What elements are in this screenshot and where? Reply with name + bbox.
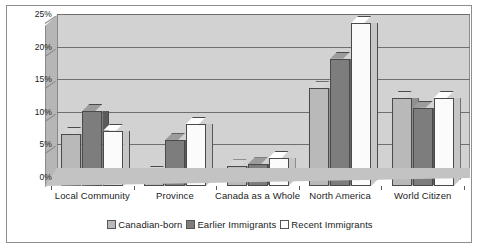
bar-top-face xyxy=(330,52,350,59)
bar-side-face xyxy=(371,23,378,186)
gridline xyxy=(57,47,470,48)
x-axis-category-label: North America xyxy=(309,190,371,201)
bar-top-face xyxy=(248,157,268,164)
legend-label: Earlier Immigrants xyxy=(197,219,276,230)
bar-top xyxy=(351,16,371,23)
y-axis-tick-label: 10% xyxy=(35,107,52,117)
gridline xyxy=(57,79,470,80)
y-axis-tick-label: 20% xyxy=(35,42,52,52)
bar-top-face xyxy=(269,151,289,158)
gridline xyxy=(57,14,470,15)
bar-chart: 0%5%10%15%20%25% Local CommunityProvince… xyxy=(0,0,480,249)
bar-top xyxy=(227,159,247,166)
bar-face xyxy=(351,23,371,186)
x-axis-category-label: Local Community xyxy=(55,190,130,201)
bar-top xyxy=(61,127,81,134)
bar-top-face xyxy=(165,133,185,140)
legend-label: Canadian-born xyxy=(118,219,182,230)
y-axis-tick-label: 25% xyxy=(35,9,52,19)
y-axis-tick-label: 15% xyxy=(35,74,52,84)
bar xyxy=(330,59,350,186)
bar-top xyxy=(103,124,123,131)
bar xyxy=(351,23,371,186)
x-axis-category-label: Canada as a Whole xyxy=(215,190,300,201)
bar-top-face xyxy=(103,124,123,131)
bar-face xyxy=(330,59,350,186)
legend-item[interactable]: Recent Immigrants xyxy=(280,219,372,230)
legend-label: Recent Immigrants xyxy=(291,219,372,230)
legend-swatch-icon xyxy=(186,220,195,229)
bar-top xyxy=(269,151,289,158)
legend-item[interactable]: Earlier Immigrants xyxy=(186,219,276,230)
y-axis-tick-label: 0% xyxy=(40,172,53,182)
legend-item[interactable]: Canadian-born xyxy=(107,219,182,230)
plot-area: 0%5%10%15%20%25% xyxy=(45,14,470,186)
bar-top xyxy=(248,157,268,164)
bar-top-face xyxy=(186,117,206,124)
y-axis-tick-label: 5% xyxy=(40,139,53,149)
bar-top xyxy=(392,91,412,98)
bar-top xyxy=(186,117,206,124)
chart-legend: Canadian-bornEarlier ImmigrantsRecent Im… xyxy=(0,219,480,230)
bar-top xyxy=(330,52,350,59)
bar-top xyxy=(434,91,454,98)
bar-top-face xyxy=(434,91,454,98)
bar-top xyxy=(165,133,185,140)
bar-top xyxy=(413,101,433,108)
legend-swatch-icon xyxy=(107,220,116,229)
legend-swatch-icon xyxy=(280,220,289,229)
bar-top-face xyxy=(227,159,247,166)
bar-top-face xyxy=(61,127,81,134)
bar-top xyxy=(309,81,329,88)
bar-top-face xyxy=(351,16,371,23)
bar-side xyxy=(371,23,378,186)
bar-top-face xyxy=(413,101,433,108)
bar-top-face xyxy=(82,104,102,111)
bar-top-face xyxy=(392,91,412,98)
bar-top xyxy=(82,104,102,111)
x-axis-labels: Local CommunityProvinceCanada as a Whole… xyxy=(45,190,470,204)
x-axis-category-label: Province xyxy=(156,190,194,201)
x-axis-category-label: World Citizen xyxy=(394,190,452,201)
bar-top-face xyxy=(309,81,329,88)
